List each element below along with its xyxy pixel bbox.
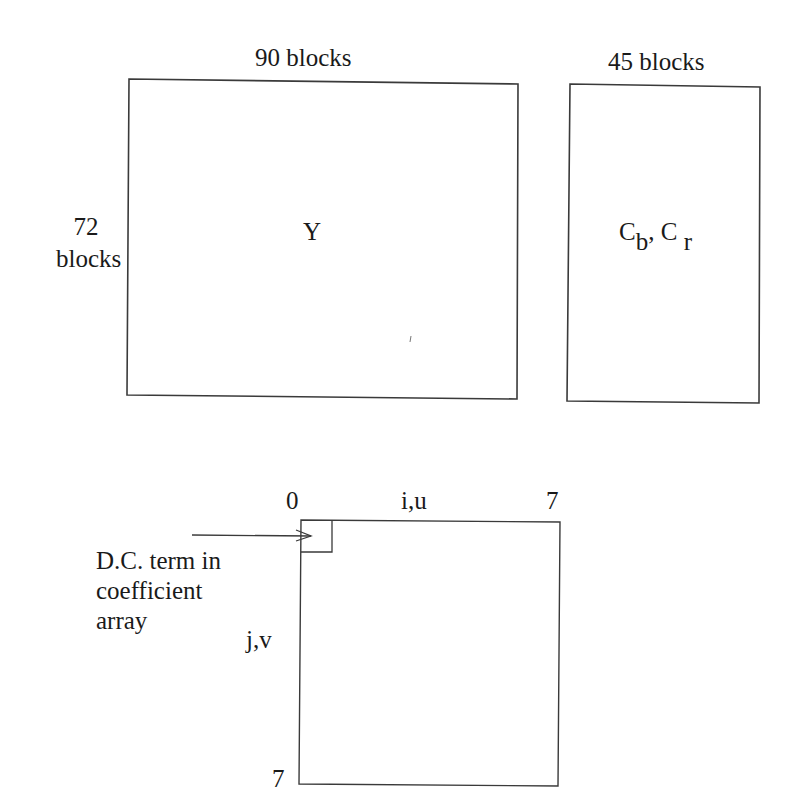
coef-top-left-index: 0 bbox=[286, 488, 299, 513]
dc-arrow-shaft bbox=[192, 535, 311, 536]
dc-annotation-line-2: coefficient bbox=[96, 576, 221, 606]
cb-subscript: b bbox=[636, 228, 649, 255]
luma-height-label: 72 blocks bbox=[56, 211, 116, 275]
luma-width-label: 90 blocks bbox=[255, 45, 352, 70]
jpeg-block-layout-diagram bbox=[0, 0, 785, 791]
chroma-separator: , bbox=[648, 218, 654, 245]
coef-top-right-index: 7 bbox=[546, 488, 559, 513]
luma-height-unit: blocks bbox=[56, 243, 116, 275]
coef-left-axis-label: j,v bbox=[246, 627, 272, 652]
chroma-width-label: 45 blocks bbox=[608, 49, 705, 74]
cr-subscript: r bbox=[684, 228, 692, 255]
luma-plane-label: Y bbox=[303, 219, 321, 244]
coef-top-axis-label: i,u bbox=[401, 488, 427, 513]
dc-annotation-line-3: array bbox=[96, 606, 221, 636]
cr-letter: C bbox=[661, 218, 678, 245]
luma-plane-rect bbox=[127, 79, 518, 399]
scan-artifact bbox=[410, 336, 411, 342]
coefficient-block-rect bbox=[299, 520, 560, 786]
dc-term-annotation: D.C. term in coefficient array bbox=[96, 546, 221, 636]
chroma-plane-label: Cb, C r bbox=[619, 219, 692, 244]
cb-letter: C bbox=[619, 218, 636, 245]
coef-bottom-left-index: 7 bbox=[272, 766, 285, 791]
luma-height-number: 72 bbox=[56, 211, 116, 243]
dc-annotation-line-1: D.C. term in bbox=[96, 546, 221, 576]
